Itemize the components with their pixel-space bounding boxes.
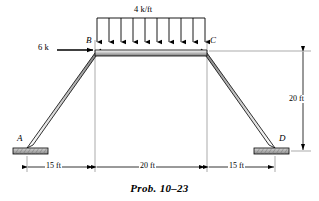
joint-label-B: B <box>86 36 92 45</box>
dimension-label-cd: 15 ft <box>228 162 245 170</box>
dimension-label-height: 20 ft <box>288 95 305 103</box>
member-BC <box>95 50 207 56</box>
distributed-load-group <box>97 18 205 42</box>
joint-label-D: D <box>279 134 286 143</box>
member-AB <box>27 49 101 148</box>
figure-caption: Prob. 10–23 <box>0 182 319 194</box>
support-D <box>254 148 289 154</box>
point-load-label: 6 k <box>38 43 49 52</box>
distributed-load-arrows <box>97 18 205 42</box>
frame-structure-diagram <box>0 0 319 201</box>
joint-label-C: C <box>210 36 216 45</box>
dimension-label-ab: 15 ft <box>45 162 62 170</box>
joint-label-A: A <box>17 134 23 143</box>
support-A <box>13 148 48 154</box>
member-CD <box>201 49 275 148</box>
frame-members <box>27 49 275 148</box>
distributed-load-label: 4 k/ft <box>134 5 152 14</box>
dimension-label-bc: 20 ft <box>139 162 156 170</box>
